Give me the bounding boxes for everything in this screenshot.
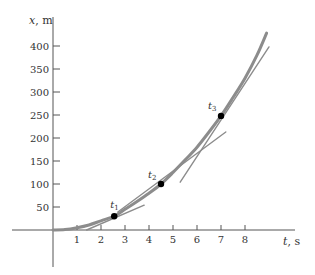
tangent-line <box>180 47 269 182</box>
y-tick-label: 300 <box>30 87 49 98</box>
y-tick-label: 150 <box>30 156 49 167</box>
marked-points: t1t2t3 <box>110 100 224 219</box>
x-tick-label: 2 <box>98 234 104 245</box>
point-t3-marker <box>218 113 224 119</box>
y-tick-label: 100 <box>30 179 49 190</box>
point-t1-label: t1 <box>110 199 119 212</box>
x-tick-label: 1 <box>74 234 80 245</box>
position-time-graph: 1234567850100150200250300350400 t1t2t3 x… <box>0 0 315 275</box>
x-tick-label: 8 <box>242 234 248 245</box>
tangent-line <box>118 132 226 212</box>
x-axis-unit: , s <box>287 235 300 248</box>
y-axis-unit: , m <box>35 14 53 27</box>
y-tick-label: 250 <box>30 110 49 121</box>
x-tick-label: 3 <box>122 234 128 245</box>
y-tick-label: 400 <box>30 41 49 52</box>
x-tick-label: 4 <box>146 234 152 245</box>
x-tick-label: 6 <box>194 234 200 245</box>
point-t2-label: t2 <box>148 169 157 182</box>
y-tick-label: 200 <box>30 133 49 144</box>
point-t1-marker <box>111 213 117 219</box>
position-curve <box>53 33 267 230</box>
x-axis-label: t, s <box>283 235 300 248</box>
data-series <box>53 33 269 230</box>
x-tick-label: 7 <box>218 234 224 245</box>
y-axis-label: x, m <box>29 14 53 27</box>
y-tick-label: 350 <box>30 64 49 75</box>
x-tick-label: 5 <box>170 234 176 245</box>
point-t3-label: t3 <box>208 100 217 113</box>
y-tick-label: 50 <box>36 202 49 213</box>
point-t2-marker <box>158 181 164 187</box>
axis-ticks: 1234567850100150200250300350400 <box>30 41 248 246</box>
